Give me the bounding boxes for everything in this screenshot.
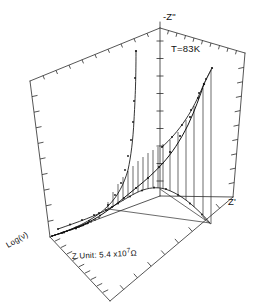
back-wall-projection-path [62,51,136,233]
floor-link-b [160,189,211,224]
plot-canvas: -Z" T=83K Z' Log(ν) Z Unit: 5.4 x107Ω [0,0,255,307]
ticks-logf-axis [55,239,108,293]
svg-text:Z Unit: 5.4 x107Ω: Z Unit: 5.4 x107Ω [72,246,138,261]
floor-projection-path [58,188,210,229]
back-wall-projection-markers [61,50,137,234]
axis-box-frame [30,22,245,301]
right-wall-projection-path [162,68,212,147]
impedance-data-path [52,84,204,236]
unit-note: Z Unit: 5.4 x107Ω [72,246,138,261]
ticks-backleft-top [43,33,149,79]
axis-label-z-imag: -Z" [163,11,176,22]
ticks-backleft-left [32,95,54,221]
axis-label-logf: Log(ν) [5,230,30,250]
unit-note-suffix: Ω [130,249,137,258]
impedance-data-curve [51,83,205,237]
floor-link-a [108,209,210,223]
right-wall-projection-markers [161,67,213,148]
ticks-backright-right [229,67,244,183]
impedance-data-markers [51,83,205,237]
right-wall-projection-curve [161,67,213,148]
floor-projection-curve [57,187,210,230]
floor-link-lines [108,189,211,224]
back-wall-projection-curve [61,50,137,234]
temperature-annotation: T=83K [171,43,201,54]
logf-axis [50,237,110,301]
unit-note-prefix: Z Unit: 5.4 x10 [72,249,128,261]
impedance-3d-figure: -Z" T=83K Z' Log(ν) Z Unit: 5.4 x107Ω [0,0,255,307]
axis-label-z-real: Z' [228,196,236,207]
